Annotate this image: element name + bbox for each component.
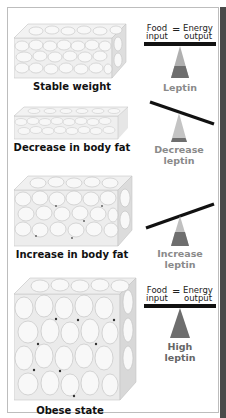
fat-tissue-block-thin <box>14 106 130 140</box>
equals-sign: = <box>172 26 180 34</box>
leptin-label: Leptin <box>150 82 210 93</box>
panel-caption: Decrease in body fat <box>10 142 134 153</box>
leptin-label: Decrease leptin <box>149 144 209 166</box>
input-label: input <box>146 294 168 302</box>
leptin-label: Increase leptin <box>150 248 210 270</box>
panel-obese-state: Obese state Food input = Energy output H… <box>0 272 226 418</box>
output-label: output <box>182 32 214 40</box>
output-label: output <box>182 294 214 302</box>
balance-scale-tilted-left <box>144 202 218 250</box>
fat-tissue-block-small <box>14 22 130 80</box>
input-label: input <box>146 32 168 40</box>
fat-tissue-block-large <box>14 276 138 402</box>
panel-increase-body-fat: Increase in body fat Increase leptin <box>0 172 226 272</box>
leptin-label: High leptin <box>150 341 210 363</box>
panel-caption: Obese state <box>20 405 120 416</box>
balance-scale-tilted-right <box>146 100 218 146</box>
balance-scale-level <box>144 40 216 80</box>
panel-caption: Stable weight <box>22 81 122 92</box>
panel-caption: Increase in body fat <box>10 249 134 260</box>
balance-scale-level <box>144 302 216 342</box>
panel-stable-weight: Stable weight Food input = Energy output… <box>0 0 226 100</box>
fat-tissue-block-medium <box>14 174 134 248</box>
equals-sign: = <box>172 288 180 296</box>
